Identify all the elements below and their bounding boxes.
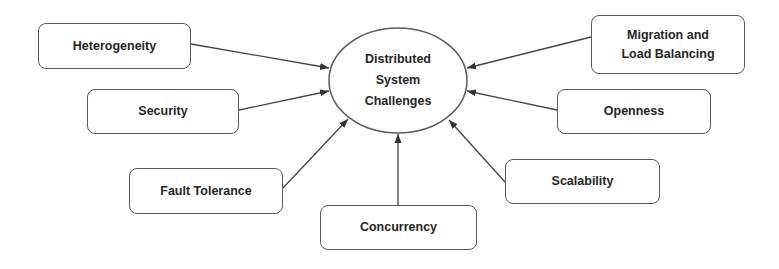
node-label: Heterogeneity [73,37,156,56]
center-node-label: Distributed System Challenges [365,49,432,112]
node-label: Fault Tolerance [160,182,251,201]
center-node: Distributed System Challenges [329,28,467,133]
node-label: Concurrency [360,218,437,237]
edge-heterogeneity [191,44,329,68]
node-label: Scalability [552,172,614,191]
node-security: Security [87,89,239,134]
node-scalability: Scalability [505,159,660,204]
edge-migration [467,37,591,68]
node-label: Security [138,102,187,121]
node-migration: Migration and Load Balancing [591,15,745,74]
node-heterogeneity: Heterogeneity [38,23,191,69]
edge-openness [467,91,557,110]
node-label: Openness [604,102,664,121]
node-openness: Openness [557,89,711,134]
node-label: Migration and Load Balancing [621,26,714,64]
edge-security [239,91,329,110]
node-concurrency: Concurrency [320,205,477,250]
node-fault-tolerance: Fault Tolerance [129,168,283,214]
